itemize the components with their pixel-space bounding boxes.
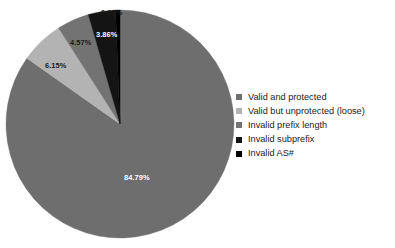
pie-slice-group <box>6 10 234 238</box>
slice-value-label-invalid-asn: 0.63% <box>101 8 122 17</box>
legend-swatch-icon <box>236 108 242 114</box>
legend-item-invalid-prefix-length[interactable]: Invalid prefix length <box>236 118 395 132</box>
legend-swatch-icon <box>236 122 242 128</box>
pie-chart-figure: 0.63% 3.86% 4.57% 6.15% 84.79% Valid and… <box>0 0 395 248</box>
legend-swatch-icon <box>236 137 242 143</box>
slice-value-label-valid-protected: 84.79% <box>124 173 150 182</box>
chart-legend: Valid and protected Valid but unprotecte… <box>236 90 395 161</box>
legend-item-valid-and-protected[interactable]: Valid and protected <box>236 90 395 104</box>
legend-item-valid-but-unprotected[interactable]: Valid but unprotected (loose) <box>236 104 395 118</box>
legend-item-label: Invalid subprefix <box>248 134 314 145</box>
slice-value-label-valid-unprotected: 6.15% <box>45 61 66 70</box>
legend-swatch-icon <box>236 94 242 100</box>
slice-value-label-invalid-subprefix: 3.86% <box>96 30 117 39</box>
legend-item-label: Invalid AS# <box>248 148 294 159</box>
pie-plot-area: 0.63% 3.86% 4.57% 6.15% 84.79% <box>0 0 240 248</box>
legend-item-label: Invalid prefix length <box>248 120 327 131</box>
slice-value-label-invalid-prefix-length: 4.57% <box>70 38 91 47</box>
legend-item-label: Valid and protected <box>248 92 327 103</box>
legend-item-invalid-subprefix[interactable]: Invalid subprefix <box>236 133 395 147</box>
legend-item-label: Valid but unprotected (loose) <box>248 106 365 117</box>
legend-item-invalid-asn[interactable]: Invalid AS# <box>236 147 395 161</box>
legend-swatch-icon <box>236 151 242 157</box>
pie-svg <box>0 0 240 248</box>
